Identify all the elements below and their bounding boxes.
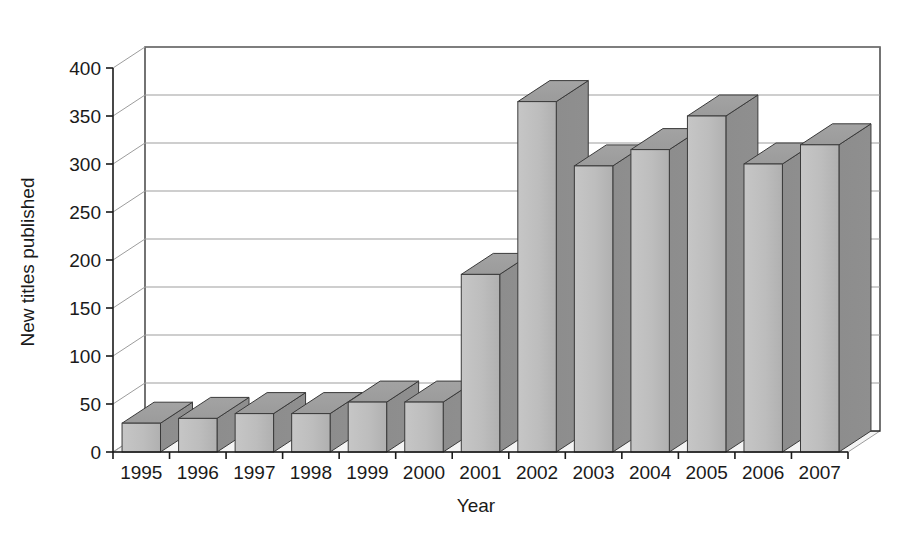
bar-chart-3d: 050100150200250300350400 199519961997199… bbox=[0, 0, 915, 538]
x-tick-label: 1997 bbox=[233, 462, 275, 483]
x-tick-label: 2000 bbox=[403, 462, 445, 483]
y-tick-label: 150 bbox=[69, 298, 101, 319]
x-tick-label: 2001 bbox=[459, 462, 501, 483]
y-tick-label: 50 bbox=[80, 394, 101, 415]
bar-2007 bbox=[801, 124, 871, 452]
x-tick-label: 2004 bbox=[629, 462, 672, 483]
y-tick-label: 400 bbox=[69, 58, 101, 79]
x-tick-label: 2006 bbox=[742, 462, 784, 483]
y-tick-label: 200 bbox=[69, 250, 101, 271]
y-tick-label: 250 bbox=[69, 202, 101, 223]
y-tick-label: 100 bbox=[69, 346, 101, 367]
x-tick-label: 2002 bbox=[516, 462, 558, 483]
y-tick-label: 300 bbox=[69, 154, 101, 175]
y-axis-title: New titles published bbox=[17, 178, 38, 347]
x-tick-label: 1998 bbox=[290, 462, 332, 483]
x-tick-label: 1996 bbox=[177, 462, 219, 483]
y-tick-label: 0 bbox=[90, 442, 101, 463]
x-tick-label: 2007 bbox=[799, 462, 841, 483]
x-tick-label: 2003 bbox=[572, 462, 614, 483]
x-tick-label: 2005 bbox=[686, 462, 728, 483]
x-tick-label: 1995 bbox=[120, 462, 162, 483]
x-axis-title: Year bbox=[457, 495, 496, 516]
x-tick-label: 1999 bbox=[346, 462, 388, 483]
chart-container: 050100150200250300350400 199519961997199… bbox=[0, 0, 915, 538]
y-tick-label: 350 bbox=[69, 106, 101, 127]
